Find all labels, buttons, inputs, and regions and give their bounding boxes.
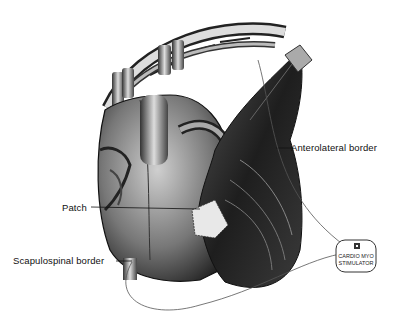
- label-scapulospinal-border: Scapulospinal border: [13, 255, 104, 266]
- heart-illustration: [0, 0, 398, 326]
- stimulator-label-line1: CARDIO MYO: [336, 253, 376, 260]
- label-patch: Patch: [62, 202, 87, 213]
- stimulator-label-line2: STIMULATOR: [336, 260, 376, 267]
- stimulator-label: CARDIO MYO STIMULATOR: [336, 253, 376, 266]
- muscle-flap: [192, 45, 312, 287]
- illustration-canvas: Anterolateral border Patch Scapulospinal…: [0, 0, 398, 326]
- label-anterolateral-border: Anterolateral border: [291, 142, 377, 153]
